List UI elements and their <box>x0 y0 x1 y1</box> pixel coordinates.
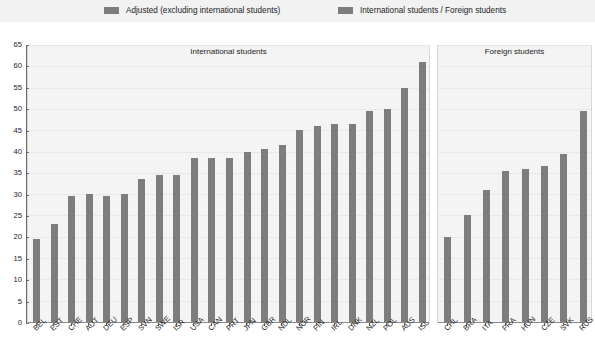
y-tick-mark <box>26 216 29 217</box>
y-tick-label: 5 <box>18 298 22 306</box>
bar <box>33 239 40 322</box>
bar <box>331 124 338 322</box>
y-tick-label: 30 <box>14 191 22 199</box>
y-tick-mark <box>26 173 29 174</box>
bar <box>68 196 75 322</box>
y-axis: 05101520253035404550556065 <box>0 22 26 352</box>
bar <box>483 190 490 322</box>
bar-group-foreign <box>438 45 591 323</box>
y-tick-label: 25 <box>14 212 22 220</box>
bar <box>419 62 426 322</box>
y-tick-label: 0 <box>18 319 22 327</box>
bar <box>244 152 251 322</box>
y-tick-label: 20 <box>14 234 22 242</box>
y-tick-mark <box>26 237 29 238</box>
panel-foreign-students: Foreign students <box>437 45 592 323</box>
y-tick-mark <box>26 66 29 67</box>
bar <box>103 196 110 322</box>
y-tick-label: 35 <box>14 170 22 178</box>
y-tick-mark <box>26 45 29 46</box>
bar <box>226 158 233 322</box>
chart-plot-area: 05101520253035404550556065 International… <box>0 22 595 352</box>
bar <box>580 111 587 322</box>
bar <box>138 179 145 322</box>
y-tick-label: 10 <box>14 276 22 284</box>
y-tick-mark <box>26 152 29 153</box>
bar <box>156 175 163 322</box>
bar <box>464 215 471 322</box>
chart-legend: Adjusted (excluding international studen… <box>0 0 595 22</box>
bar <box>279 145 286 322</box>
y-tick-mark <box>26 109 29 110</box>
bar <box>208 158 215 322</box>
legend-label-adjusted: Adjusted (excluding international studen… <box>126 7 280 15</box>
bar <box>522 169 529 322</box>
bar <box>502 171 509 322</box>
bar <box>121 194 128 322</box>
legend-swatch-adjusted-icon <box>104 7 119 14</box>
y-tick-label: 40 <box>14 148 22 156</box>
y-tick-mark <box>26 88 29 89</box>
x-axis-labels-left: BELESTCHEAUTDEUESPSVNSWEISRUSACANPRTJPNG… <box>27 327 430 352</box>
bar <box>191 158 198 322</box>
bar <box>314 126 321 322</box>
bar <box>541 166 548 322</box>
x-axis-labels-right: CHLBRAITAFRAHUNCZESVKRUS <box>437 327 592 352</box>
bar-group-international <box>28 45 429 323</box>
y-tick-label: 55 <box>14 84 22 92</box>
bar <box>173 175 180 322</box>
bar <box>296 130 303 322</box>
y-tick-mark <box>26 302 29 303</box>
y-tick-mark <box>26 280 29 281</box>
bar <box>401 88 408 322</box>
bar <box>444 237 451 322</box>
bar <box>51 224 58 322</box>
legend-item-adjusted: Adjusted (excluding international studen… <box>104 7 280 15</box>
bar <box>86 194 93 322</box>
y-tick-mark <box>26 323 29 324</box>
bar <box>261 149 268 322</box>
y-tick-label: 65 <box>14 41 22 49</box>
y-tick-label: 50 <box>14 105 22 113</box>
y-tick-label: 60 <box>14 63 22 71</box>
y-tick-mark <box>26 195 29 196</box>
y-tick-mark <box>26 131 29 132</box>
bar <box>560 154 567 322</box>
legend-swatch-international-icon <box>338 7 353 14</box>
legend-item-international: International students / Foreign student… <box>338 7 506 15</box>
y-tick-label: 15 <box>14 255 22 263</box>
y-tick-mark <box>26 259 29 260</box>
legend-label-international: International students / Foreign student… <box>360 7 506 15</box>
bar <box>384 109 391 322</box>
bar <box>349 124 356 322</box>
panel-international-students: International students <box>27 45 430 323</box>
y-tick-label: 45 <box>14 127 22 135</box>
bar <box>366 111 373 322</box>
